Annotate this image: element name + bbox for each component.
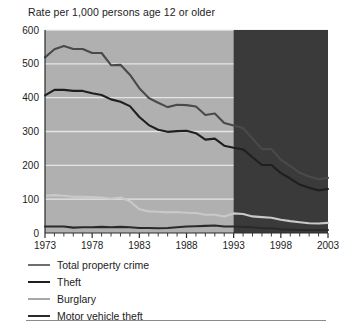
x-tick-label-1993: 1993 <box>223 240 246 251</box>
legend-item-burglary: Burglary <box>28 290 328 307</box>
figure-container: Rate per 1,000 persons age 12 or older 0… <box>0 0 348 333</box>
x-tick-label-1998: 1998 <box>270 240 293 251</box>
y-tick-label-0: 0 <box>33 228 39 239</box>
x-tick-label-1988: 1988 <box>175 240 198 251</box>
legend-label-burglary: Burglary <box>57 293 96 305</box>
line-chart-svg: 0100200300400500600197319781983198819931… <box>0 0 348 260</box>
shaded-region-1993-2003 <box>234 30 328 233</box>
legend-item-motor-vehicle-theft: Motor vehicle theft <box>28 307 328 324</box>
shaded-region-group <box>234 30 328 233</box>
plot-area: 0100200300400500600197319781983198819931… <box>0 0 348 260</box>
legend-swatch-burglary <box>28 298 50 300</box>
y-tick-label-600: 600 <box>22 25 39 36</box>
legend-item-total-property-crime: Total property crime <box>28 256 328 273</box>
x-tick-label-1978: 1978 <box>81 240 104 251</box>
legend-label-total-property-crime: Total property crime <box>57 259 149 271</box>
legend-swatch-theft <box>28 281 50 283</box>
y-tick-label-200: 200 <box>22 160 39 171</box>
chart-legend: Total property crime Theft Burglary Moto… <box>28 256 328 324</box>
y-tick-label-400: 400 <box>22 92 39 103</box>
y-tick-label-500: 500 <box>22 58 39 69</box>
x-tick-label-2003: 2003 <box>317 240 340 251</box>
x-tick-label-1983: 1983 <box>128 240 151 251</box>
y-tick-label-100: 100 <box>22 194 39 205</box>
legend-swatch-motor-vehicle-theft <box>28 315 50 317</box>
x-tick-label-1973: 1973 <box>34 240 57 251</box>
legend-item-theft: Theft <box>28 273 328 290</box>
footer-divider <box>26 320 326 321</box>
legend-label-theft: Theft <box>57 276 81 288</box>
legend-swatch-total-property-crime <box>28 264 50 266</box>
y-tick-label-300: 300 <box>22 126 39 137</box>
